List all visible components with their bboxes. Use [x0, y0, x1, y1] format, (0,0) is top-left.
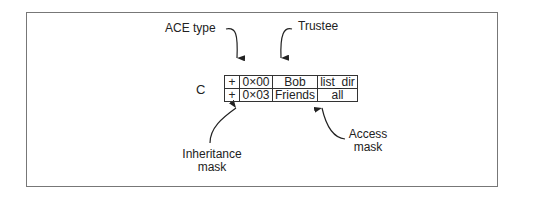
access-mask-value: list_dir: [318, 76, 358, 89]
ace-flag: +: [225, 89, 240, 102]
inheritance-mask-value: 0×00: [240, 76, 273, 89]
access-mask-line2: mask: [346, 141, 390, 154]
inheritance-mask-label: Inheritance mask: [180, 148, 244, 174]
acl-row: + 0×03 Friends all: [225, 89, 358, 102]
trustee-value: Friends: [273, 89, 318, 102]
trustee-arrow: [281, 29, 292, 58]
inheritance-mask-line2: mask: [180, 161, 244, 174]
object-label: C: [196, 83, 205, 96]
ace-flag: +: [225, 76, 240, 89]
access-mask-label: Access mask: [346, 128, 390, 154]
inheritance-mask-arrow: [210, 108, 236, 143]
acl-row: + 0×00 Bob list_dir: [225, 76, 358, 89]
trustee-value: Bob: [273, 76, 318, 89]
acl-table: + 0×00 Bob list_dir + 0×03 Friends all: [224, 75, 358, 102]
access-mask-value: all: [318, 89, 358, 102]
inheritance-mask-value: 0×03: [240, 89, 273, 102]
ace-type-label: ACE type: [165, 22, 216, 35]
trustee-label: Trustee: [298, 20, 338, 33]
access-mask-arrow: [322, 108, 345, 139]
ace-type-arrow: [226, 29, 237, 58]
